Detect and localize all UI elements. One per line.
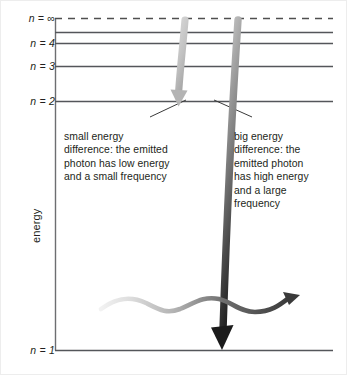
callout-small-energy-line-2: difference: the emitted bbox=[64, 143, 196, 156]
callout-small-energy: small energy difference: the emitted pho… bbox=[64, 130, 196, 184]
callout-small-energy-line-1: small energy bbox=[64, 130, 196, 143]
level-label-n-1: n = 1 bbox=[9, 344, 55, 356]
callout-big-energy: big energy difference: the emitted photo… bbox=[234, 130, 338, 210]
level-label-n-infinity: n = ∞ bbox=[9, 12, 55, 24]
energy-axis-label: energy bbox=[30, 209, 42, 243]
callout-big-energy-line-4: has high energy bbox=[234, 170, 338, 183]
callout-big-energy-line-2: difference: the bbox=[234, 143, 338, 156]
callout-small-energy-line-3: photon has low energy bbox=[64, 157, 196, 170]
callout-big-energy-line-6: frequency bbox=[234, 197, 338, 210]
level-label-n-3: n = 3 bbox=[9, 60, 55, 72]
level-label-n-4: n = 4 bbox=[9, 37, 55, 49]
level-label-n-2: n = 2 bbox=[9, 95, 55, 107]
callout-small-energy-line-4: and a small frequency bbox=[64, 170, 196, 183]
callout-big-energy-line-3: emitted photon bbox=[234, 157, 338, 170]
energy-level-diagram: n = ∞ n = 4 n = 3 n = 2 n = 1 energy sma… bbox=[0, 0, 347, 375]
callout-big-energy-line-1: big energy bbox=[234, 130, 338, 143]
callout-big-energy-line-5: and a large bbox=[234, 184, 338, 197]
